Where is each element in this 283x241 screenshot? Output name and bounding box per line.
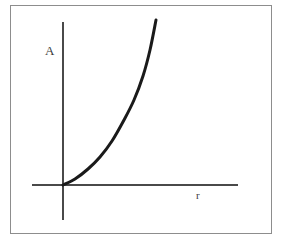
y-axis-label: A [45,44,54,57]
exponential-curve [63,20,156,185]
plot-canvas [0,0,283,241]
figure-root: A r [0,0,283,241]
x-axis-label: r [196,190,200,201]
